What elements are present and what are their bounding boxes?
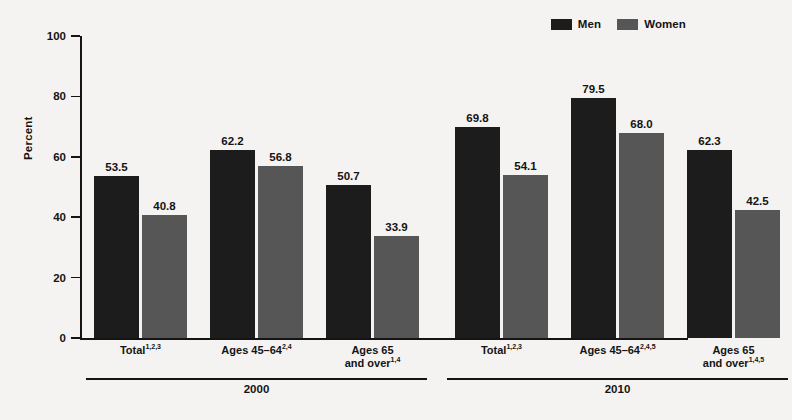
bar-value-label: 54.1	[514, 160, 536, 172]
y-axis-tick-label: 80	[53, 90, 66, 102]
x-axis-category-label: Ages 45–642,4	[190, 344, 323, 357]
bar-men-2000-1: 62.2	[210, 150, 255, 338]
category-label-line1: Ages 65	[306, 344, 439, 357]
y-axis-tick-80: 80	[71, 96, 80, 98]
y-axis-title: Percent	[22, 116, 34, 160]
bar-value-label: 68.0	[630, 118, 652, 130]
category-label-line1: Total1,2,3	[74, 344, 207, 357]
plot-area: 020406080100 53.540.862.256.850.733.969.…	[80, 36, 688, 338]
bar-women-2000-0: 40.8	[142, 215, 187, 338]
y-axis-line	[80, 36, 82, 338]
bar-men-2000-0: 53.5	[94, 176, 139, 338]
x-axis-category-label: Total1,2,3	[435, 344, 568, 357]
group-label-2010: 2010	[447, 383, 788, 395]
category-footnote-marker: 2,4	[282, 343, 292, 350]
category-label-line1: Total1,2,3	[435, 344, 568, 357]
bar-women-2010-2: 42.5	[735, 210, 780, 338]
bar-value-label: 79.5	[582, 83, 604, 95]
x-axis-line	[80, 338, 688, 340]
bar-men-2010-1: 79.5	[571, 98, 616, 338]
y-axis-tick-label: 20	[53, 272, 66, 284]
legend-item-men: Men	[551, 18, 601, 30]
y-axis-tick-40: 40	[71, 216, 80, 218]
y-axis-tick-100: 100	[71, 35, 80, 37]
bar-value-label: 56.8	[269, 151, 291, 163]
legend-label-men: Men	[578, 18, 601, 30]
bar-value-label: 50.7	[337, 170, 359, 182]
bar-women-2000-1: 56.8	[258, 166, 303, 338]
y-axis-tick-20: 20	[71, 277, 80, 279]
bar-women-2010-1: 68.0	[619, 133, 664, 338]
category-label-line1: Ages 45–642,4,5	[551, 344, 684, 357]
bar-women-2010-0: 54.1	[503, 175, 548, 338]
legend-swatch-men	[551, 19, 572, 30]
category-label-line1: Ages 45–642,4	[190, 344, 323, 357]
x-axis-category-label: Total1,2,3	[74, 344, 207, 357]
bar-men-2010-2: 62.3	[687, 150, 732, 338]
bar-women-2000-2: 33.9	[374, 236, 419, 338]
legend-label-women: Women	[644, 18, 686, 30]
x-axis-category-label: Ages 45–642,4,5	[551, 344, 684, 357]
bar-value-label: 69.8	[466, 112, 488, 124]
category-footnote-marker: 1,2,3	[506, 343, 522, 350]
y-axis-tick-label: 100	[47, 30, 66, 42]
bar-value-label: 40.8	[153, 200, 175, 212]
y-axis-tick-label: 40	[53, 211, 66, 223]
bar-men-2000-2: 50.7	[326, 185, 371, 338]
bar-value-label: 62.3	[698, 135, 720, 147]
category-label-line2: and over1,4	[306, 357, 439, 370]
category-footnote-marker: 1,2,3	[145, 343, 161, 350]
group-rule-2000	[86, 378, 427, 380]
category-footnote-marker: 1,4	[391, 356, 401, 363]
x-axis-category-label: Ages 65and over1,4	[306, 344, 439, 370]
group-rule-2010	[447, 378, 788, 380]
category-label-line1: Ages 65	[667, 344, 792, 357]
category-label-line2: and over1,4,5	[667, 357, 792, 370]
bar-value-label: 33.9	[385, 221, 407, 233]
chart-legend: Men Women	[551, 18, 686, 30]
y-axis-tick-label: 0	[60, 332, 66, 344]
category-footnote-marker: 2,4,5	[640, 343, 656, 350]
bar-value-label: 53.5	[105, 161, 127, 173]
legend-item-women: Women	[617, 18, 686, 30]
legend-swatch-women	[617, 19, 638, 30]
bar-men-2010-0: 69.8	[455, 127, 500, 338]
y-axis-tick-60: 60	[71, 156, 80, 158]
y-axis-tick-label: 60	[53, 151, 66, 163]
bar-value-label: 42.5	[746, 195, 768, 207]
x-axis-category-label: Ages 65and over1,4,5	[667, 344, 792, 370]
category-footnote-marker: 1,4,5	[749, 356, 765, 363]
y-axis-tick-0: 0	[71, 337, 80, 339]
bar-value-label: 62.2	[221, 135, 243, 147]
group-label-2000: 2000	[86, 383, 427, 395]
